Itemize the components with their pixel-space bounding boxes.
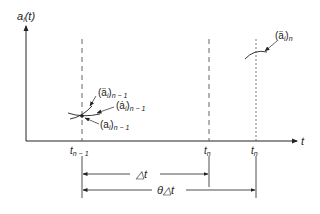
label-velocity-prev: (ȧi)n − 1 — [116, 100, 146, 112]
delta-t-label: △t — [135, 168, 148, 180]
leader-acceleration-prev — [90, 96, 96, 106]
time-integration-diagram: ai(t) t tn − 1 tn tn (äi)n − 1 (ȧi)n − 1… — [0, 0, 320, 214]
label-displacement-prev: (ai)n − 1 — [100, 119, 130, 131]
leader-acceleration-next — [265, 41, 277, 51]
x-axis-label: t — [301, 135, 305, 147]
point-displacement-prev — [80, 114, 84, 118]
leader-displacement-prev — [85, 118, 99, 124]
label-acceleration-next: (äi)n — [275, 30, 293, 42]
theta-delta-t-label: θ△t — [157, 184, 175, 196]
leader-velocity-prev — [97, 107, 114, 113]
tick-label-t-n: tn — [204, 145, 211, 157]
label-acceleration-prev: (äi)n − 1 — [98, 87, 128, 99]
tick-label-t-n-minus-1: tn − 1 — [70, 145, 89, 157]
tick-label-t-n-theta: tn — [251, 145, 258, 157]
y-axis-label: ai(t) — [17, 10, 35, 23]
